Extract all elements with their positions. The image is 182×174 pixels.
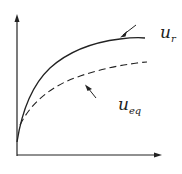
pointer-arrow-u-eq	[85, 85, 96, 99]
pointer-arrow-u-r	[120, 25, 136, 38]
x-axis	[17, 153, 162, 158]
label-u-r: ur	[160, 24, 176, 44]
diagram-canvas	[0, 0, 182, 174]
y-axis-arrow-icon	[15, 14, 20, 22]
curve-u-r	[17, 38, 145, 142]
label-u-eq: ueq	[118, 96, 141, 116]
x-axis-arrow-icon	[154, 153, 162, 158]
